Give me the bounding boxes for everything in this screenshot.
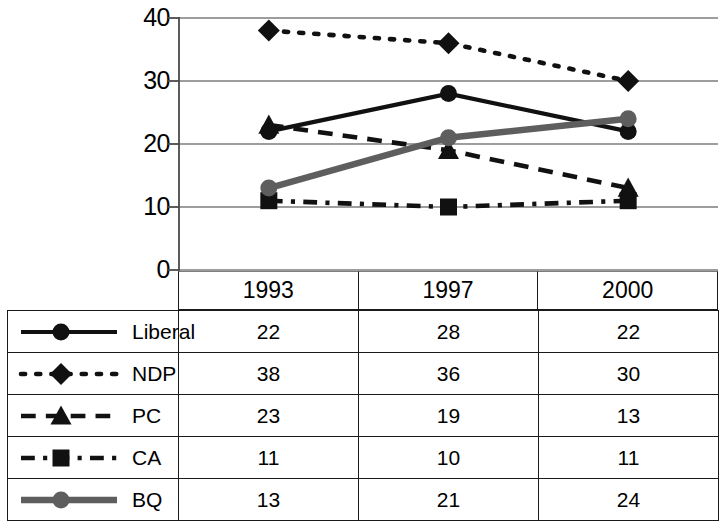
table-cell-ca-2000: 11 <box>539 437 719 479</box>
data-point-ca-1997 <box>440 199 457 216</box>
table-row: PC231913 <box>8 395 719 437</box>
legend-cell-pc: PC <box>8 395 179 437</box>
table-row: BQ132124 <box>8 479 719 521</box>
table-cell-bq-1993: 13 <box>179 479 359 521</box>
table-row: CA111011 <box>8 437 719 479</box>
legend-entry: NDP <box>8 353 178 394</box>
table-row: NDP383630 <box>8 353 719 395</box>
data-point-ndp-2000 <box>617 70 639 92</box>
legend-entry: CA <box>8 437 178 478</box>
data-point-ca-2000 <box>620 192 637 209</box>
legend-swatch-ca <box>18 443 120 473</box>
table-cell-pc-1997: 19 <box>359 395 539 437</box>
legend-swatch-ndp <box>18 359 120 389</box>
legend-cell-bq: BQ <box>8 479 179 521</box>
table-cell-ca-1993: 11 <box>179 437 359 479</box>
data-series-layer <box>258 20 639 216</box>
legend-label-liberal: Liberal <box>132 320 195 344</box>
legend-label-bq: BQ <box>132 488 162 512</box>
legend-cell-liberal: Liberal <box>8 311 179 353</box>
table-cell-pc-1993: 23 <box>179 395 359 437</box>
legend-label-ndp: NDP <box>132 362 176 386</box>
legend-entry: BQ <box>8 479 178 520</box>
table-row: Liberal222822 <box>8 311 719 353</box>
legend-label-pc: PC <box>132 404 161 428</box>
axis-lines <box>168 17 179 271</box>
table-cell-ndp-2000: 30 <box>539 353 719 395</box>
table-cell-liberal-1993: 22 <box>179 311 359 353</box>
legend-marker-bq <box>53 491 70 508</box>
legend-cell-ndp: NDP <box>8 353 179 395</box>
data-point-bq-2000 <box>620 110 637 127</box>
legend-swatch-pc <box>18 401 120 431</box>
year-header-2000: 2000 <box>537 271 718 310</box>
legend-cell-ca: CA <box>8 437 179 479</box>
legend-entry: Liberal <box>8 311 178 352</box>
data-point-bq-1993 <box>260 180 277 197</box>
plot-svg <box>0 0 721 300</box>
series-ca <box>260 192 636 215</box>
table-cell-bq-2000: 24 <box>539 479 719 521</box>
plot-area: 40 30 20 10 0 <box>0 0 721 300</box>
table-cell-pc-2000: 13 <box>539 395 719 437</box>
year-header-1993: 1993 <box>178 271 358 310</box>
legend-label-ca: CA <box>132 446 161 470</box>
year-header-1997: 1997 <box>358 271 538 310</box>
data-point-liberal-1997 <box>440 85 457 102</box>
table-cell-liberal-2000: 22 <box>539 311 719 353</box>
legend-marker-liberal <box>53 323 70 340</box>
data-point-bq-1997 <box>440 129 457 146</box>
table-cell-ca-1997: 10 <box>359 437 539 479</box>
table-cell-ndp-1997: 36 <box>359 353 539 395</box>
data-point-ndp-1993 <box>258 20 280 42</box>
legend-marker-ndp <box>50 363 72 385</box>
line-chart-with-data-table: 40 30 20 10 0 1993 1997 2000 Liberal2228… <box>0 0 721 528</box>
table-cell-liberal-1997: 28 <box>359 311 539 353</box>
legend-swatch-bq <box>18 485 120 515</box>
legend-entry: PC <box>8 395 178 436</box>
table-cell-ndp-1993: 38 <box>179 353 359 395</box>
table-cell-bq-1997: 21 <box>359 479 539 521</box>
data-table: Liberal222822NDP383630PC231913CA111011BQ… <box>7 310 719 521</box>
table-header-years: 1993 1997 2000 <box>178 271 718 310</box>
legend-swatch-liberal <box>18 317 120 347</box>
legend-marker-ca <box>53 449 70 466</box>
data-point-ndp-1997 <box>438 32 460 54</box>
